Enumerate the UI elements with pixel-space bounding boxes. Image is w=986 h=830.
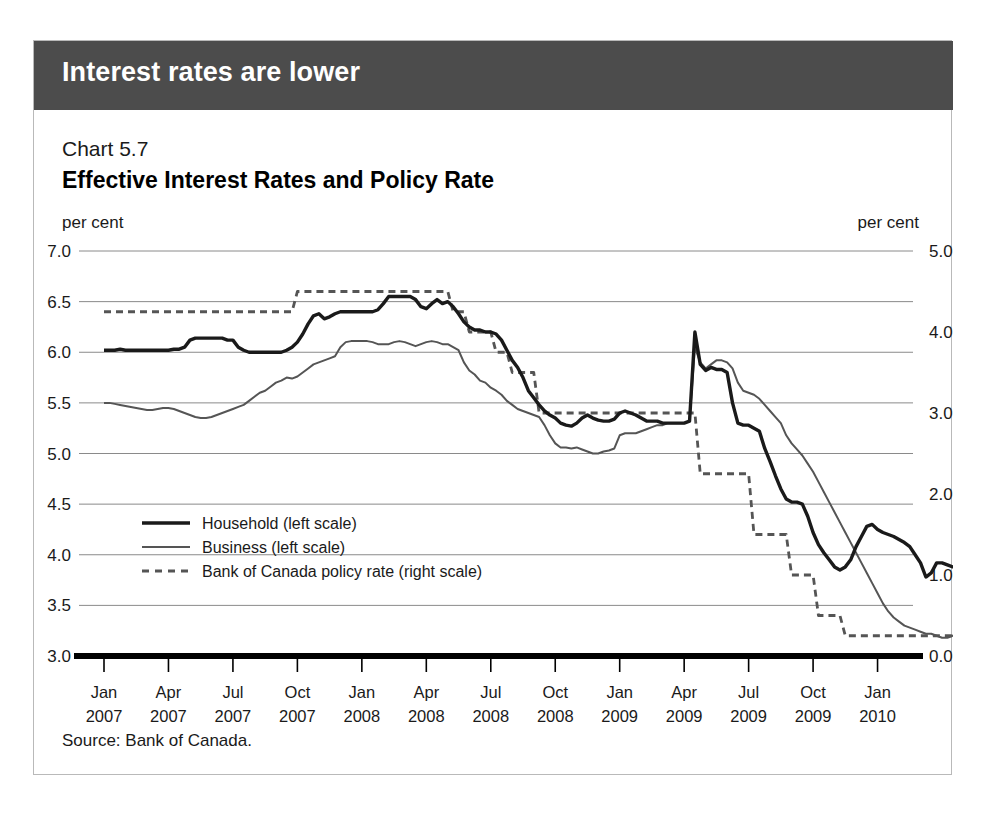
y-axis-tick-label: 5.5	[47, 394, 71, 413]
y-axis-tick-label: 6.0	[47, 343, 71, 362]
x-axis-tick-year: 2008	[343, 707, 380, 725]
x-axis-tick-year: 2008	[537, 707, 574, 725]
x-axis-tick-year: 2007	[150, 707, 187, 725]
legend-item: Bank of Canada policy rate (right scale)	[142, 563, 482, 580]
series-line-business	[104, 341, 953, 642]
y2-axis-tick-label: 3.0	[929, 404, 953, 423]
x-axis-tick-month: Oct	[800, 683, 826, 701]
x-axis-tick-month: Jan	[864, 683, 891, 701]
y-axis-tick-label: 3.5	[47, 596, 71, 615]
x-axis-tick-month: Jul	[222, 683, 243, 701]
x-axis-tick-month: Jul	[480, 683, 501, 701]
y-axis-tick-label: 6.5	[47, 293, 71, 312]
x-axis-tick-year: 2007	[215, 707, 252, 725]
y-axis-tick-label: 7.0	[47, 242, 71, 261]
chart-svg: 3.54.04.55.05.56.06.57.03.00.01.02.03.04…	[34, 41, 953, 776]
x-axis-tick-month: Jul	[738, 683, 759, 701]
legend-item: Household (left scale)	[142, 515, 357, 532]
x-axis-tick-month: Apr	[156, 683, 182, 701]
x-axis-tick-year: 2009	[666, 707, 703, 725]
y2-axis-tick-label: 2.0	[929, 485, 953, 504]
chart-page: Interest rates are lower Chart 5.7 Effec…	[0, 0, 986, 830]
legend-item: Business (left scale)	[142, 539, 345, 556]
x-axis-tick-year: 2010	[859, 707, 896, 725]
y2-axis-tick-label: 0.0	[929, 647, 953, 666]
x-axis-tick-month: Jan	[606, 683, 633, 701]
legend-label: Business (left scale)	[202, 539, 345, 556]
y-axis-tick-label: 4.0	[47, 546, 71, 565]
legend-label: Bank of Canada policy rate (right scale)	[202, 563, 482, 580]
y-axis-tick-label: 3.0	[47, 647, 71, 666]
x-axis-tick-year: 2008	[472, 707, 509, 725]
y2-axis-tick-label: 4.0	[929, 323, 953, 342]
x-axis-tick-year: 2008	[408, 707, 445, 725]
series-line-household	[104, 297, 953, 578]
y-axis-tick-label: 5.0	[47, 445, 71, 464]
x-axis-tick-month: Apr	[671, 683, 697, 701]
plot-area: 3.54.04.55.05.56.06.57.03.00.01.02.03.04…	[34, 41, 953, 776]
y2-axis-tick-label: 5.0	[929, 242, 953, 261]
x-axis-tick-month: Apr	[413, 683, 439, 701]
chart-card: Interest rates are lower Chart 5.7 Effec…	[33, 40, 952, 775]
y-axis-tick-label: 4.5	[47, 495, 71, 514]
x-axis-tick-year: 2007	[86, 707, 123, 725]
x-axis-tick-month: Jan	[349, 683, 376, 701]
source-note: Source: Bank of Canada.	[62, 731, 252, 751]
x-axis-tick-year: 2007	[279, 707, 316, 725]
x-axis-tick-month: Oct	[285, 683, 311, 701]
legend-label: Household (left scale)	[202, 515, 357, 532]
series-line-policy-rate	[104, 292, 953, 636]
x-axis-tick-year: 2009	[730, 707, 767, 725]
x-axis-tick-month: Jan	[91, 683, 118, 701]
x-axis-tick-month: Oct	[542, 683, 568, 701]
x-axis-tick-year: 2009	[601, 707, 638, 725]
x-axis-tick-year: 2009	[795, 707, 832, 725]
